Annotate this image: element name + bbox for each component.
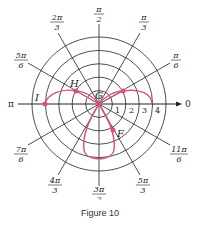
point-g <box>97 102 102 107</box>
svg-text:2: 2 <box>95 195 101 200</box>
point-h <box>74 89 79 94</box>
svg-text:5π: 5π <box>138 176 149 185</box>
svg-text:6: 6 <box>176 155 181 164</box>
point-label-h: H <box>69 78 79 89</box>
figure-caption: Figure 10 <box>0 208 200 218</box>
point-label-i: I <box>34 92 40 103</box>
point-label-g: G <box>95 90 103 101</box>
svg-text:7π: 7π <box>16 145 27 154</box>
svg-text:2π: 2π <box>51 13 63 22</box>
angle-label-pi-3: π 3 <box>139 13 149 32</box>
svg-text:π: π <box>172 51 179 60</box>
radial-tick-3: 3 <box>142 106 147 115</box>
svg-text:2: 2 <box>95 15 101 24</box>
point-right <box>121 89 126 94</box>
svg-text:3: 3 <box>52 186 57 195</box>
radial-tick-2: 2 <box>129 106 134 115</box>
angle-label-3pi-2: 3π 2 <box>92 185 106 200</box>
point-f <box>111 128 116 133</box>
axis-zero-label: 0 <box>185 99 191 109</box>
angle-label-7pi-6: 7π 6 <box>14 145 28 164</box>
svg-text:3: 3 <box>141 23 146 32</box>
svg-text:6: 6 <box>18 61 23 70</box>
svg-text:4π: 4π <box>49 176 61 185</box>
angle-label-pi-2: π 2 <box>94 5 104 24</box>
svg-text:5π: 5π <box>16 51 27 60</box>
angle-label-5pi-6: 5π 6 <box>14 51 28 70</box>
svg-text:3: 3 <box>54 23 59 32</box>
angle-label-2pi-3: 2π 3 <box>50 13 64 32</box>
angle-label-4pi-3: 4π 3 <box>48 176 62 195</box>
svg-text:3π: 3π <box>94 185 105 194</box>
svg-text:6: 6 <box>173 61 178 70</box>
svg-text:π: π <box>95 5 102 14</box>
svg-text:6: 6 <box>18 155 23 164</box>
axis-pi-label: π <box>8 99 14 109</box>
radial-tick-1: 1 <box>115 106 120 115</box>
point-i <box>43 102 48 107</box>
angle-label-pi-6: π 6 <box>171 51 181 70</box>
svg-text:11π: 11π <box>171 145 187 154</box>
angle-label-11pi-6: 11π 6 <box>170 145 188 164</box>
polar-graph: F G H I 1 2 3 4 0 π π 6 π 3 π 2 2π 3 5π … <box>0 0 200 200</box>
radial-tick-4: 4 <box>155 106 160 115</box>
svg-text:π: π <box>140 13 147 22</box>
angle-label-5pi-3: 5π 3 <box>136 176 150 195</box>
svg-text:3: 3 <box>140 186 145 195</box>
point-label-f: F <box>116 128 125 139</box>
